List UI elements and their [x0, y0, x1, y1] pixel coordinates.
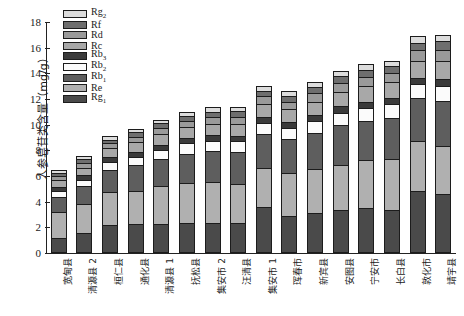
y-tick-label: 12	[30, 93, 41, 105]
x-tick-label: 宁安市	[370, 258, 381, 316]
bar-segment-rc	[128, 142, 144, 152]
y-tick-label: 16	[30, 42, 41, 54]
y-tick-label: 10	[30, 119, 41, 131]
bar-column[interactable]	[358, 64, 374, 253]
ginsenoside-stacked-bar-chart: 人参皂苷类含量（mg/g） 024681012141618 宽甸县清源县 2桓仁…	[0, 0, 464, 316]
bar-segment-rc	[205, 124, 221, 136]
bar-segment-re	[179, 183, 195, 223]
bar-segment-rd	[281, 102, 297, 110]
bar-segment-rb1	[179, 154, 195, 184]
bar-segment-rb2	[205, 141, 221, 151]
bar-segment-rc	[358, 86, 374, 101]
x-tick-label: 抚松县	[191, 258, 202, 316]
bar-segment-rb1	[230, 152, 246, 184]
bar-column[interactable]	[205, 107, 221, 253]
bar-segment-rc	[281, 109, 297, 122]
bar-segment-rd	[256, 96, 272, 104]
bar-segment-rb1	[281, 139, 297, 173]
x-tick-label: 靖宇县	[447, 258, 458, 316]
bar-segment-rb1	[51, 197, 67, 212]
bar-column[interactable]	[179, 112, 195, 253]
legend: Rg2RfRdRcRb3Rb2Rb1ReRg1	[63, 9, 123, 104]
bar-segment-rc	[51, 180, 67, 187]
bar-segment-rg1	[435, 194, 451, 253]
legend-item-rg2[interactable]: Rg2	[63, 9, 123, 19]
legend-swatch-rc	[63, 42, 87, 50]
bar-segment-re	[410, 141, 426, 190]
bar-segment-rc	[333, 92, 349, 107]
bar-segment-rb2	[384, 104, 400, 117]
bar-column[interactable]	[230, 107, 246, 253]
legend-item-rf[interactable]: Rf	[63, 20, 123, 30]
bar-segment-rb1	[205, 151, 221, 182]
bar-column[interactable]	[435, 35, 451, 253]
bar-segment-rg1	[179, 223, 195, 253]
x-tick-label: 宽甸县	[63, 258, 74, 316]
bar-segment-rd	[307, 93, 323, 101]
bar-segment-rc	[179, 127, 195, 138]
bar-segment-rd	[230, 117, 246, 124]
bar-segment-rg1	[281, 216, 297, 253]
y-tick-label: 4	[36, 196, 42, 208]
bar-segment-re	[384, 159, 400, 210]
legend-item-rd[interactable]: Rd	[63, 30, 123, 40]
y-tick-label: 8	[36, 144, 42, 156]
bar-segment-rg1	[128, 224, 144, 253]
bar-column[interactable]	[410, 36, 426, 253]
bar-segment-rc	[256, 104, 272, 117]
legend-swatch-rb2	[63, 63, 87, 71]
bar-segment-rb2	[281, 128, 297, 140]
bar-segment-rc	[384, 82, 400, 97]
legend-label: Rf	[91, 20, 101, 30]
bar-segment-rb2	[333, 113, 349, 126]
bar-column[interactable]	[384, 61, 400, 253]
bar-column[interactable]	[153, 120, 169, 253]
bar-segment-re	[435, 146, 451, 194]
bar-segment-rd	[205, 117, 221, 124]
x-tick-label: 新宾县	[319, 258, 330, 316]
bar-segment-rc	[410, 61, 426, 78]
bar-segment-rb1	[358, 121, 374, 160]
bar-column[interactable]	[128, 129, 144, 253]
bar-segment-rc	[435, 61, 451, 79]
bar-segment-rg1	[333, 210, 349, 253]
bar-column[interactable]	[51, 170, 67, 253]
bar-column[interactable]	[333, 71, 349, 253]
bar-segment-rb2	[153, 150, 169, 159]
legend-swatch-rf	[63, 21, 87, 29]
bar-segment-rf	[410, 43, 426, 51]
bar-segment-rc	[230, 124, 246, 136]
bar-segment-rb1	[128, 165, 144, 191]
legend-item-rg1[interactable]: Rg1	[63, 94, 123, 104]
legend-label: Rd	[91, 30, 103, 40]
legend-swatch-rg2	[63, 10, 87, 18]
bar-segment-re	[358, 160, 374, 208]
x-tick-label: 安图县	[345, 258, 356, 316]
bar-segment-rb1	[76, 186, 92, 203]
bar-column[interactable]	[256, 86, 272, 253]
bar-segment-rd	[384, 73, 400, 82]
bar-segment-re	[256, 168, 272, 208]
bar-column[interactable]	[281, 91, 297, 253]
bar-segment-rg1	[153, 224, 169, 253]
bar-segment-rb2	[358, 108, 374, 121]
bar-segment-rg1	[307, 213, 323, 253]
bar-segment-rb1	[102, 170, 118, 192]
bar-segment-rf	[358, 70, 374, 77]
bar-column[interactable]	[307, 82, 323, 253]
x-tick-label: 通化县	[140, 258, 151, 316]
y-tick-label: 18	[30, 16, 41, 28]
x-axis-line	[46, 253, 456, 254]
bar-segment-rb1	[410, 98, 426, 141]
bar-segment-re	[128, 191, 144, 224]
bar-column[interactable]	[76, 156, 92, 253]
bar-column[interactable]	[102, 136, 118, 253]
bar-segment-re	[102, 192, 118, 225]
bar-segment-rc	[76, 168, 92, 176]
bar-segment-rf	[435, 41, 451, 49]
x-tick-label: 珲春市	[293, 258, 304, 316]
x-tick-label: 清源县 1	[165, 258, 176, 316]
bar-segment-re	[230, 184, 246, 223]
bar-segment-rb2	[230, 141, 246, 152]
legend-item-rb1[interactable]: Rb1	[63, 73, 123, 83]
